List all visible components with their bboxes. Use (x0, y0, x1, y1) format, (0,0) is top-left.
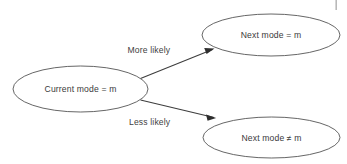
state-transition-diagram: Current mode = m Next mode = m Next mode… (0, 0, 347, 164)
edge-less-likely-line (141, 100, 215, 118)
edge-label-more-likely: More likely (128, 45, 171, 55)
scan-artifact-mark (335, 0, 337, 10)
edge-label-less-likely: Less likely (129, 117, 171, 127)
arrow-head-icon (204, 48, 214, 54)
node-next-mode-same[interactable]: Next mode = m (202, 14, 340, 56)
node-next-mode-different-label: Next mode ≠ m (241, 133, 301, 143)
diagram-canvas: Current mode = m Next mode = m Next mode… (0, 0, 347, 164)
node-current-mode[interactable]: Current mode = m (13, 66, 148, 112)
node-next-mode-same-label: Next mode = m (241, 30, 301, 40)
arrow-head-icon (206, 115, 216, 121)
node-current-mode-label: Current mode = m (45, 84, 117, 94)
node-next-mode-different[interactable]: Next mode ≠ m (203, 117, 340, 158)
